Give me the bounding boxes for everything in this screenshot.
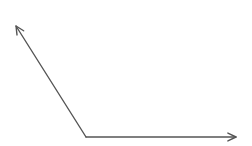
- background: [0, 0, 252, 146]
- angle-diagram: [0, 0, 252, 146]
